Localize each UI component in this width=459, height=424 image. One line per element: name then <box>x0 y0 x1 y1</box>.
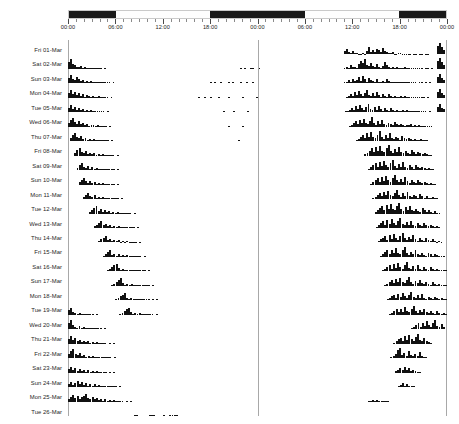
activity-bar <box>431 126 433 127</box>
actogram-row <box>68 43 447 55</box>
time-axis-labels: 00:0006:0012:0018:0000:0006:0012:0018:00… <box>0 24 459 34</box>
activity-bar <box>130 401 132 402</box>
tick-hour-20 <box>226 19 227 22</box>
actogram-row <box>68 173 447 185</box>
tick-hour-10 <box>147 19 148 22</box>
tick-hour-5 <box>107 19 108 22</box>
activity-bar <box>443 95 445 98</box>
tick-hour-45 <box>423 19 424 22</box>
tick-hour-11 <box>155 19 156 22</box>
tick-hour-28 <box>289 19 290 22</box>
activity-bar <box>387 401 389 402</box>
date-label-10: Mon 11-Mar <box>30 192 62 198</box>
activity-bar <box>233 111 235 112</box>
activity-bar <box>152 299 154 300</box>
actogram-row <box>68 346 447 358</box>
tick-hour-42 <box>400 19 401 24</box>
activity-bar <box>421 82 423 83</box>
tick-hour-33 <box>329 19 330 22</box>
tick-hour-32 <box>321 19 322 22</box>
activity-bar <box>114 357 116 358</box>
activity-bar <box>113 372 115 373</box>
phase-segment-light-3 <box>305 11 399 18</box>
actogram-row <box>68 375 447 387</box>
date-label-16: Sun 17-Mar <box>31 278 62 284</box>
activity-bar <box>163 415 165 416</box>
time-label-5: 06:00 <box>298 24 313 30</box>
activity-bar <box>242 97 244 98</box>
actogram-row <box>68 57 447 69</box>
actogram-plot-area <box>68 40 447 416</box>
activity-bar <box>109 126 111 127</box>
date-label-6: Thu 07-Mar <box>31 134 62 140</box>
activity-bar <box>204 97 206 98</box>
tick-hour-41 <box>392 19 393 22</box>
activity-bar <box>152 314 154 315</box>
date-label-17: Mon 18-Mar <box>30 293 62 299</box>
activity-bar <box>210 97 212 98</box>
activity-bar <box>256 97 258 98</box>
activity-bar <box>445 299 447 300</box>
actogram-row <box>68 303 447 315</box>
activity-bar <box>423 97 425 98</box>
tick-hour-23 <box>250 19 251 22</box>
tick-hour-15 <box>186 19 187 22</box>
activity-bar <box>198 97 200 98</box>
activity-bar <box>133 227 135 228</box>
activity-bar <box>96 314 98 315</box>
tick-hour-18 <box>210 19 211 24</box>
tick-hour-2 <box>84 19 85 22</box>
tick-hour-16 <box>194 19 195 22</box>
activity-bar <box>135 242 137 243</box>
activity-bar <box>445 314 447 315</box>
date-label-0: Fri 01-Mar <box>34 47 62 53</box>
tick-hour-30 <box>305 19 306 24</box>
tick-hour-7 <box>123 19 124 22</box>
activity-bar <box>443 65 445 69</box>
actogram-row <box>68 361 447 373</box>
date-label-4: Tue 05-Mar <box>31 105 62 111</box>
tick-hour-9 <box>139 19 140 22</box>
activity-bar <box>409 54 411 55</box>
actogram-row <box>68 216 447 228</box>
actogram-row <box>68 100 447 112</box>
date-label-23: Sun 24-Mar <box>31 380 62 386</box>
activity-bar <box>429 111 431 112</box>
activity-bar <box>238 140 240 141</box>
activity-bar <box>425 111 427 112</box>
tick-hour-38 <box>368 19 369 22</box>
activity-bar <box>113 169 115 170</box>
activity-bar <box>122 401 124 402</box>
activity-bar <box>443 50 445 55</box>
activity-bar <box>148 270 150 271</box>
time-label-7: 18:00 <box>392 24 407 30</box>
tick-hour-31 <box>313 19 314 22</box>
activity-bar <box>436 198 438 199</box>
activity-bar <box>242 126 244 127</box>
activity-bar <box>441 242 443 243</box>
activity-bar <box>103 111 105 112</box>
activity-bar <box>438 227 440 228</box>
date-label-21: Fri 22-Mar <box>34 351 62 357</box>
date-label-5: Wed 06-Mar <box>29 119 62 125</box>
activity-bar <box>425 357 427 358</box>
actogram-row <box>68 288 447 300</box>
activity-bar <box>104 343 106 344</box>
time-label-6: 12:00 <box>345 24 360 30</box>
actogram-row <box>68 404 447 416</box>
activity-bar <box>228 126 230 127</box>
actogram-row <box>68 260 447 272</box>
activity-bar <box>228 82 230 83</box>
tick-hour-1 <box>76 19 77 22</box>
date-label-25: Tue 26-Mar <box>31 409 62 415</box>
activity-bar <box>214 82 216 83</box>
activity-bar <box>107 97 109 98</box>
tick-hour-13 <box>171 19 172 22</box>
tick-hour-34 <box>336 19 337 22</box>
activity-bar <box>109 82 111 83</box>
actogram-row <box>68 72 447 84</box>
activity-bar <box>104 68 106 69</box>
activity-bar <box>113 343 115 344</box>
activity-bar <box>240 68 242 69</box>
tick-hour-21 <box>234 19 235 22</box>
